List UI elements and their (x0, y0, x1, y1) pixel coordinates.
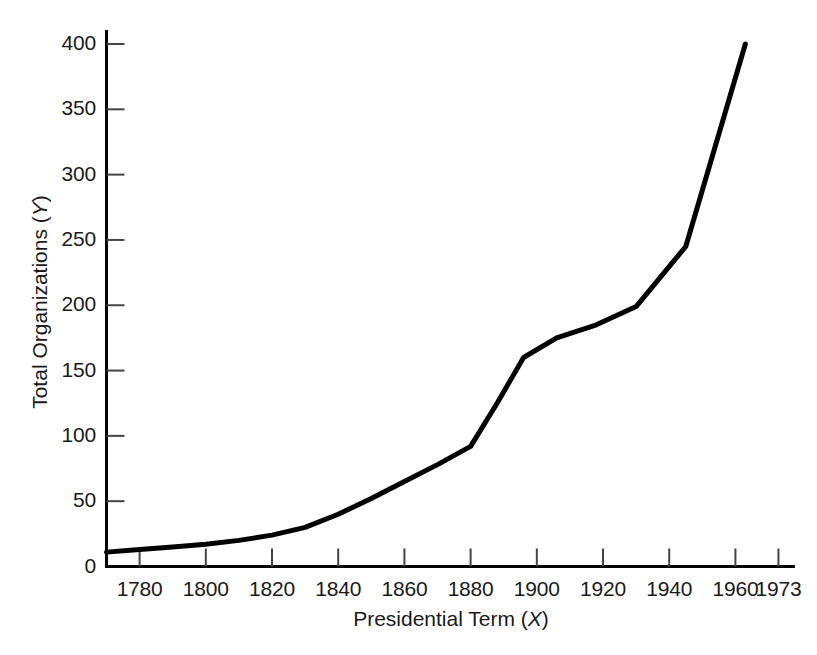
data-series-line (107, 44, 746, 552)
y-axis-variable: Y (28, 202, 51, 216)
y-tick-label: 400 (20, 31, 96, 55)
chart-figure: 050100150200250300350400 178018001820184… (0, 0, 817, 655)
x-tick-label: 1860 (374, 577, 434, 601)
x-axis-ticks (140, 549, 779, 567)
x-tick-label: 1920 (573, 577, 633, 601)
chart-axes (105, 30, 795, 567)
x-axis-title-close: ) (542, 607, 549, 630)
x-tick-label: 1940 (639, 577, 699, 601)
x-tick-label: 1820 (242, 577, 302, 601)
y-tick-label: 0 (20, 554, 96, 578)
x-tick-label: 1900 (507, 577, 567, 601)
y-axis-title-close: ) (28, 195, 51, 202)
x-tick-label: 1840 (308, 577, 368, 601)
x-tick-label: 1800 (176, 577, 236, 601)
x-tick-label: 1780 (110, 577, 170, 601)
x-tick-label: 1880 (441, 577, 501, 601)
y-axis-title-text: Total Organizations ( (28, 216, 51, 409)
x-axis-title: Presidential Term (X) (106, 607, 796, 631)
x-axis-title-text: Presidential Term ( (353, 607, 528, 630)
line-chart-plot (0, 0, 817, 655)
x-axis-variable: X (528, 607, 542, 630)
y-axis-title: Total Organizations (Y) (28, 92, 52, 512)
y-axis-ticks (107, 44, 125, 501)
x-tick-label: 1973 (748, 577, 808, 601)
